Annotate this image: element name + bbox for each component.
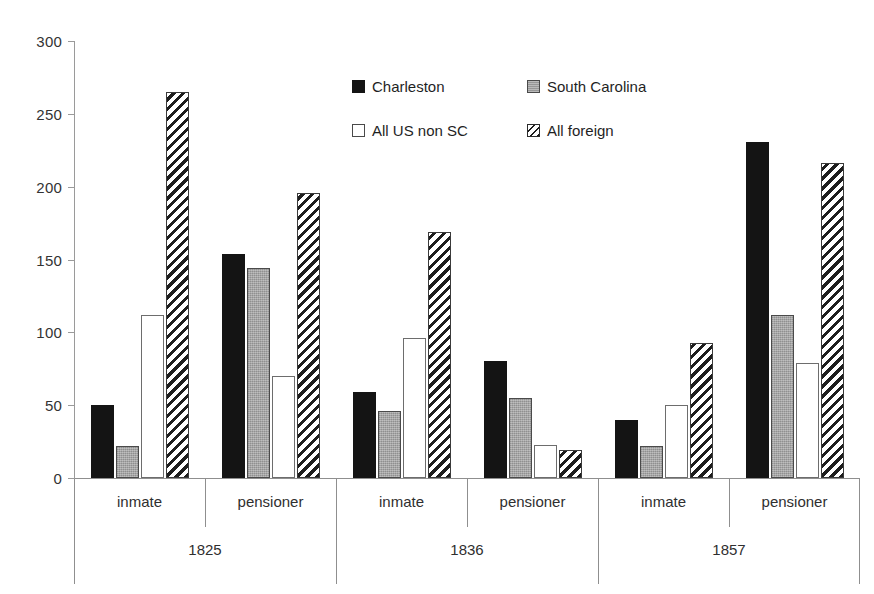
legend-swatch-all-us-non-sc-icon — [352, 124, 365, 137]
bar-all-foreign — [559, 450, 582, 478]
legend-label-charleston: Charleston — [372, 78, 445, 95]
legend-swatch-all-foreign-icon — [527, 124, 540, 137]
x-axis-year-band: 182518361857 — [74, 479, 860, 584]
x-axis-major-separator — [598, 479, 599, 584]
y-axis-tick-label: 50 — [18, 397, 62, 414]
y-axis-tick-label: 200 — [18, 178, 62, 195]
bar-all-foreign — [428, 232, 451, 478]
bar-south-carolina — [247, 268, 270, 478]
legend-label-all-foreign: All foreign — [547, 122, 614, 139]
legend-item-all-foreign: All foreign — [527, 122, 614, 139]
bar-all-foreign — [166, 92, 189, 478]
legend-swatch-charleston-icon — [352, 80, 365, 93]
y-axis-tick-label: 0 — [18, 470, 62, 487]
bar-charleston — [746, 142, 769, 478]
bar-all-us-non-sc — [141, 315, 164, 478]
y-axis-tick-label: 150 — [18, 251, 62, 268]
x-axis-year-label: 1836 — [336, 541, 598, 558]
bar-south-carolina — [116, 446, 139, 478]
bar-south-carolina — [640, 446, 663, 478]
legend-label-all-us-non-sc: All US non SC — [372, 122, 468, 139]
bar-chart: 050100150200250300 inmatepensionerinmate… — [0, 0, 874, 594]
y-axis-tick-label: 250 — [18, 105, 62, 122]
x-axis-major-separator — [859, 479, 860, 584]
legend-item-charleston: Charleston — [352, 78, 445, 95]
bar-charleston — [484, 361, 507, 478]
bar-south-carolina — [771, 315, 794, 478]
bar-charleston — [353, 392, 376, 478]
bar-all-us-non-sc — [272, 376, 295, 478]
y-axis-tick-label: 300 — [18, 33, 62, 50]
chart-legend: Charleston South Carolina All US non SC … — [352, 78, 682, 154]
legend-item-south-carolina: South Carolina — [527, 78, 646, 95]
bar-charleston — [222, 254, 245, 478]
bar-all-foreign — [297, 193, 320, 479]
legend-label-south-carolina: South Carolina — [547, 78, 646, 95]
bar-all-us-non-sc — [403, 338, 426, 478]
x-axis-year-label: 1825 — [74, 541, 336, 558]
x-axis-year-label: 1857 — [598, 541, 860, 558]
legend-item-all-us-non-sc: All US non SC — [352, 122, 468, 139]
bar-all-us-non-sc — [534, 445, 557, 479]
bar-group — [74, 41, 205, 478]
y-axis-tick-label: 100 — [18, 324, 62, 341]
bar-all-us-non-sc — [665, 405, 688, 478]
bar-south-carolina — [509, 398, 532, 478]
bar-all-foreign — [690, 343, 713, 478]
bar-group — [729, 41, 860, 478]
bar-group — [205, 41, 336, 478]
legend-swatch-south-carolina-icon — [527, 80, 540, 93]
bar-south-carolina — [378, 411, 401, 478]
bar-all-us-non-sc — [796, 363, 819, 478]
x-axis-major-separator — [336, 479, 337, 584]
bar-all-foreign — [821, 163, 844, 478]
bar-charleston — [615, 420, 638, 478]
bar-charleston — [91, 405, 114, 478]
x-axis-major-separator — [74, 479, 75, 584]
